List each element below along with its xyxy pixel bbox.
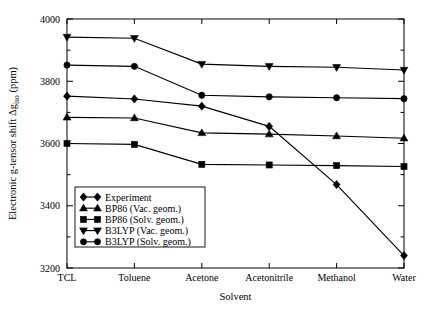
chart-canvas: 32003400360038004000TCLTolueneAcetoneAce…: [0, 0, 428, 315]
series-3: [64, 140, 407, 169]
chart-figure: 32003400360038004000TCLTolueneAcetoneAce…: [0, 0, 428, 315]
marker-diamond: [131, 95, 138, 103]
marker-square: [80, 216, 86, 222]
marker-square: [199, 161, 205, 167]
marker-diamond: [64, 92, 71, 100]
series-2: [63, 113, 408, 141]
legend-label: Experiment: [105, 192, 152, 203]
legend-label: BP86 (Solv. geom.): [105, 214, 184, 226]
legend-label: BP86 (Vac. geom.): [105, 203, 181, 215]
marker-circle: [333, 95, 339, 101]
marker-circle: [80, 239, 86, 245]
series-line: [67, 144, 404, 167]
series-line: [67, 37, 404, 70]
x-axis-tick-label: Acetone: [185, 272, 219, 283]
y-axis-tick-label: 3800: [40, 76, 60, 87]
marker-triangle-up: [333, 132, 341, 139]
marker-triangle-down: [265, 64, 273, 71]
y-axis-tick-label: 3400: [40, 200, 60, 211]
legend-label: B3LYP (Vac. geom.): [105, 225, 188, 237]
marker-diamond: [198, 102, 205, 110]
marker-triangle-up: [265, 130, 273, 137]
x-axis-tick-label: TCL: [58, 272, 77, 283]
marker-triangle-up: [131, 114, 139, 121]
series-line: [67, 117, 404, 138]
y-axis-tick-label: 3600: [40, 138, 60, 149]
marker-square: [131, 141, 137, 147]
x-axis-tick-label: Toluene: [118, 272, 151, 283]
marker-circle: [131, 63, 137, 69]
marker-diamond: [266, 122, 273, 130]
x-axis-tick-label: Water: [392, 272, 416, 283]
marker-circle: [199, 92, 205, 98]
marker-triangle-down: [63, 34, 71, 41]
y-axis-title-unit: (ppm): [7, 66, 19, 95]
marker-square: [266, 162, 272, 168]
marker-circle: [266, 94, 272, 100]
x-axis-tick-label: Acetonitrile: [245, 272, 293, 283]
chart-legend: ExperimentBP86 (Vac. geom.)BP86 (Solv. g…: [75, 187, 205, 248]
x-axis-tick-label: Methanol: [317, 272, 356, 283]
marker-triangle-up: [63, 113, 71, 120]
marker-square: [64, 140, 70, 146]
y-axis-tick-label: 4000: [40, 14, 60, 25]
marker-square: [334, 163, 340, 169]
marker-circle: [94, 239, 100, 245]
marker-circle: [401, 96, 407, 102]
series-4: [63, 34, 408, 74]
y-axis-title: Electronic g-tensor shift Δgiso (ppm): [7, 66, 21, 220]
x-axis-title: Solvent: [219, 291, 251, 302]
marker-square: [94, 216, 100, 222]
y-axis-title-subscript: iso: [12, 95, 21, 104]
marker-triangle-down: [400, 67, 408, 74]
marker-square: [401, 163, 407, 169]
series-line: [67, 65, 404, 99]
marker-circle: [64, 62, 70, 68]
legend-label: B3LYP (Solv. geom.): [105, 236, 191, 248]
y-axis-title-text: Electronic g-tensor shift Δgiso (ppm): [7, 66, 21, 220]
